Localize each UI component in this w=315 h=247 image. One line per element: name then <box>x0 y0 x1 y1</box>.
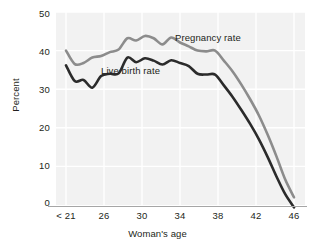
y-tick-label: 50 <box>28 8 50 19</box>
x-tick-label: 46 <box>274 210 314 221</box>
chart-container: 50 40 30 20 10 0 < 21 26 30 34 38 42 46 … <box>0 0 315 247</box>
y-tick-label: 0 <box>28 197 50 208</box>
x-tick-label: 42 <box>236 210 276 221</box>
series-label-pregnancy-rate: Pregnancy rate <box>175 32 241 43</box>
x-tick-label: 26 <box>84 210 124 221</box>
x-tick-label: < 21 <box>46 210 86 221</box>
x-axis-title: Woman's age <box>0 228 315 239</box>
y-tick-label: 20 <box>28 122 50 133</box>
x-tick-label: 38 <box>198 210 238 221</box>
x-tick-label: 34 <box>160 210 200 221</box>
x-tick-label: 30 <box>122 210 162 221</box>
y-axis-title-wrapper: Percent <box>5 65 19 125</box>
y-tick-label: 30 <box>28 84 50 95</box>
y-tick-label: 10 <box>28 160 50 171</box>
y-tick-label: 40 <box>28 46 50 57</box>
y-axis-title: Percent <box>10 78 21 111</box>
series-label-live-birth-rate: Live birth rate <box>101 65 160 76</box>
